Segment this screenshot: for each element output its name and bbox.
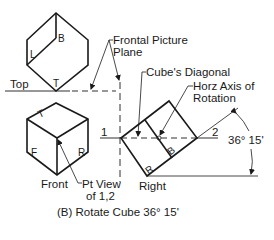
horz-axis-line1: Horz Axis of	[193, 80, 254, 92]
frontal-picture-plane-line2: Plane	[113, 46, 142, 58]
caption: (B) Rotate Cube 36° 15'	[57, 206, 179, 218]
front-view-label: Front	[41, 178, 68, 190]
top-view-label: Top	[10, 78, 29, 90]
cubes-diagonal-label: Cube's Diagonal	[146, 66, 230, 78]
front-face-f: F	[31, 148, 37, 158]
front-face-r: R	[78, 148, 85, 158]
top-face-b: B	[58, 34, 65, 44]
front-view-cube	[27, 103, 88, 175]
pt-view-line1: Pt View	[82, 178, 121, 190]
point-2-label: 2	[212, 126, 218, 138]
horz-axis-line2: Rotation	[193, 92, 236, 104]
angle-label: 36° 15'	[228, 134, 264, 146]
top-face-l: L	[30, 50, 36, 60]
frontal-picture-plane-line1: Frontal Picture	[113, 34, 188, 46]
frontal-picture-plane-label: Frontal Picture Plane	[113, 34, 188, 58]
horz-axis-label: Horz Axis of Rotation	[193, 80, 254, 104]
pt-view-label: Pt View of 1,2	[82, 178, 121, 202]
top-face-t: T	[53, 79, 59, 89]
right-view-rotated-cube	[121, 101, 197, 176]
point-1-label: 1	[101, 126, 107, 138]
right-view-label: Right	[139, 180, 166, 192]
pt-view-line2: of 1,2	[86, 190, 115, 202]
